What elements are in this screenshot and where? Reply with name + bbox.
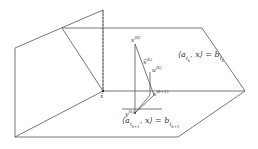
y-to-u [135, 95, 150, 113]
y-to-xk1 [135, 95, 154, 113]
x-bar-label: x̄ [100, 93, 103, 99]
x0-label: x(0) [131, 36, 140, 43]
y-k-label: y(k) [125, 110, 134, 117]
left-plane-diagonal [15, 91, 103, 137]
xbar-k-label: x̄(k) [143, 58, 152, 65]
projection-diagram: ⟨aik, x⟩ = bik ⟨aik+1, x⟩ = bik+1 x̄ x(0… [0, 0, 258, 149]
intersection-line [62, 28, 103, 91]
x-k1-label: x(k+1) [153, 90, 168, 97]
u-k-label: u(k) [152, 66, 162, 73]
plane-bottom-equation: ⟨aik+1, x⟩ = bik+1 [122, 117, 179, 129]
y-point [134, 112, 136, 114]
plane-top-equation: ⟨aik, x⟩ = bik [178, 51, 224, 63]
